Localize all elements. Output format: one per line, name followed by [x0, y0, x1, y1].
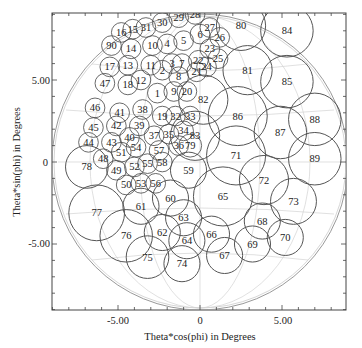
beam-label: 20	[182, 86, 193, 97]
beam-label: 38	[137, 104, 148, 115]
beam-label: 31	[141, 22, 152, 33]
beam-label: 82	[198, 94, 209, 105]
x-tick-label: 0	[197, 315, 202, 326]
beam-label: 88	[310, 114, 321, 125]
beam-label: 1	[155, 88, 160, 99]
beam-label: 61	[136, 201, 147, 212]
beam-label: 37	[149, 130, 160, 141]
beam-label: 11	[146, 60, 156, 71]
beam-label: 57	[154, 145, 165, 156]
beam-label: 66	[206, 229, 217, 240]
beam-label: 85	[282, 76, 293, 87]
beam-label: 67	[219, 250, 230, 261]
beam-label: 83	[190, 130, 201, 141]
y-tick-label: 5.00	[32, 75, 50, 86]
beam-label: 29	[173, 12, 184, 23]
beam-label: 87	[275, 127, 286, 138]
beam-label: 17	[105, 61, 116, 72]
beam-label: 90	[106, 40, 117, 51]
beam-label: 51	[116, 147, 127, 158]
beam-label: 68	[257, 216, 268, 227]
beam-label: 10	[147, 40, 158, 51]
beam-label: 28	[190, 9, 201, 20]
beam-label: 54	[131, 142, 142, 153]
beam-label: 73	[288, 196, 299, 207]
beam-label: 65	[218, 191, 229, 202]
beam-label: 49	[111, 165, 122, 176]
beam-label: 81	[242, 65, 253, 76]
beam-label: 76	[121, 230, 132, 241]
beam-label: 74	[177, 258, 188, 269]
beam-label: 14	[126, 43, 137, 54]
beam-label: 58	[157, 157, 168, 168]
beam-label: 46	[90, 102, 101, 113]
beam-label: 75	[142, 252, 153, 263]
beam-label: 77	[91, 207, 102, 218]
beam-label: 9	[171, 86, 176, 97]
beam-label: 63	[178, 212, 189, 223]
beam-label: 80	[236, 20, 247, 31]
beam-label: 55	[142, 158, 153, 169]
y-axis-label: Theta*sin(phi) in Degrees	[11, 107, 23, 217]
beam-label: 64	[182, 235, 193, 246]
beam-label: 70	[280, 232, 291, 243]
beam-label: 78	[82, 161, 93, 172]
beam-map-figure: 1234567891011121314151617181920212223242…	[0, 0, 362, 348]
beam-label: 59	[183, 165, 194, 176]
beam-label: 69	[247, 239, 258, 250]
beam-label: 84	[282, 25, 293, 36]
beam-label: 53	[136, 178, 147, 189]
beam-label: 16	[116, 27, 127, 38]
beam-label: 32	[170, 111, 181, 122]
y-tick-label: 0	[43, 157, 48, 168]
beam-label: 24	[201, 61, 212, 72]
beam-label: 27	[205, 22, 216, 33]
x-tick-label: -5.00	[107, 315, 129, 326]
beam-label: 72	[259, 175, 270, 186]
beam-label: 4	[165, 38, 171, 49]
beam-label: 13	[123, 60, 134, 71]
beam-label: 62	[157, 227, 168, 238]
beam-label: 42	[111, 120, 122, 131]
beam-label: 86	[232, 111, 243, 122]
beam-label: 30	[157, 17, 168, 28]
beam-label: 18	[123, 79, 134, 90]
beam-label: 79	[185, 140, 196, 151]
y-tick-label: -5.00	[28, 238, 50, 249]
beam-label: 5	[181, 35, 186, 46]
beam-label: 47	[100, 78, 111, 89]
beam-label: 89	[310, 153, 321, 164]
beam-label: 8	[176, 71, 181, 82]
beam-label: 25	[213, 53, 224, 64]
x-tick-label: 5.00	[274, 315, 292, 326]
x-axis-label: Theta*cos(phi) in Degrees	[144, 331, 255, 343]
beam-label: 71	[231, 150, 242, 161]
beam-label: 50	[121, 179, 132, 190]
beam-label: 45	[88, 122, 99, 133]
